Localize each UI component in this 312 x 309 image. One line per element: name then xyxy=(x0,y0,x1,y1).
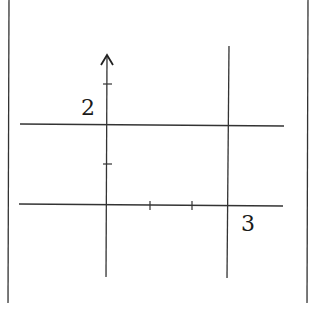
vertical-line-x3 xyxy=(227,46,229,278)
coordinate-diagram xyxy=(0,0,312,309)
label-y-value: 2 xyxy=(81,97,95,119)
left-border-line xyxy=(8,0,9,303)
horizontal-line-y2 xyxy=(20,124,284,126)
y-axis xyxy=(106,56,107,277)
right-border-line xyxy=(307,0,308,303)
x-axis xyxy=(19,204,283,206)
label-x-value: 3 xyxy=(241,213,255,235)
